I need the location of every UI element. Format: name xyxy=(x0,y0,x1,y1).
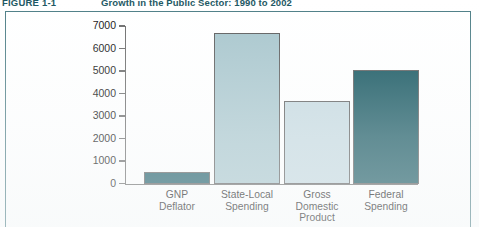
y-tick-label-wrap-1000: 1000 xyxy=(66,154,116,166)
y-tick-label-4000: 4000 xyxy=(70,87,116,99)
bar-2 xyxy=(284,101,350,183)
y-tick-5000 xyxy=(119,70,125,71)
y-axis-line xyxy=(125,26,126,184)
y-tick-label-wrap-0: 0 xyxy=(66,177,116,189)
y-tick-label-0: 0 xyxy=(70,177,116,189)
y-tick-0 xyxy=(119,183,125,184)
bar-1 xyxy=(214,33,280,184)
y-tick-7000 xyxy=(119,25,125,26)
bar-0 xyxy=(144,172,210,183)
bar-chart: 01000200030004000500060007000 GNPDeflato… xyxy=(0,0,479,227)
x-axis-label-2-line-2: Product xyxy=(275,212,359,224)
y-tick-1000 xyxy=(119,160,125,161)
y-tick-label-wrap-6000: 6000 xyxy=(66,42,116,54)
y-tick-label-5000: 5000 xyxy=(70,64,116,76)
y-tick-label-6000: 6000 xyxy=(70,42,116,54)
y-tick-label-wrap-4000: 4000 xyxy=(66,87,116,99)
y-tick-label-2000: 2000 xyxy=(70,132,116,144)
y-tick-label-1000: 1000 xyxy=(70,154,116,166)
y-tick-label-wrap-3000: 3000 xyxy=(66,109,116,121)
bar-3 xyxy=(353,70,419,184)
x-axis-label-3-line-1: Spending xyxy=(344,201,428,213)
y-tick-label-3000: 3000 xyxy=(70,109,116,121)
y-tick-label-wrap-5000: 5000 xyxy=(66,64,116,76)
y-tick-3000 xyxy=(119,115,125,116)
y-tick-label-wrap-7000: 7000 xyxy=(66,19,116,31)
y-tick-label-wrap-2000: 2000 xyxy=(66,132,116,144)
x-axis-label-3-line-0: Federal xyxy=(344,189,428,201)
x-axis-label-3: FederalSpending xyxy=(344,189,428,212)
y-tick-6000 xyxy=(119,48,125,49)
y-tick-label-7000: 7000 xyxy=(70,19,116,31)
x-axis-line xyxy=(125,184,418,185)
y-tick-4000 xyxy=(119,93,125,94)
y-tick-2000 xyxy=(119,138,125,139)
